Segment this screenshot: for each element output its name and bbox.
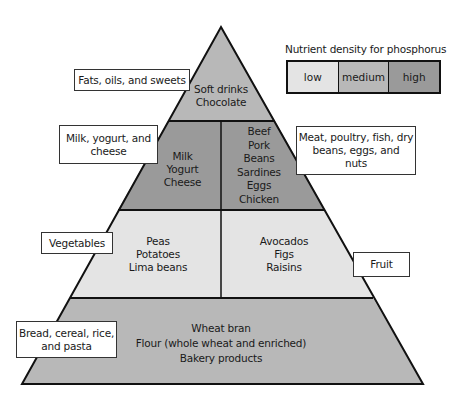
food-item: Milk (150, 150, 215, 163)
food-item: Beans (224, 152, 294, 166)
label-fats-oils-sweets: Fats, oils, and sweets (74, 69, 190, 91)
legend: low medium high (286, 60, 441, 94)
legend-label: low (304, 71, 322, 83)
legend-label: medium (342, 71, 385, 83)
food-item: Peas (120, 235, 196, 248)
label-text: Vegetables (49, 237, 105, 250)
food-item: Wheat bran (121, 321, 321, 336)
food-item: Figs (246, 248, 322, 261)
label-text: Bread, cereal, rice, (19, 327, 114, 340)
foods-fruit: Avocados Figs Raisins (246, 235, 322, 274)
food-item: Raisins (246, 261, 322, 274)
legend-low: low (288, 62, 339, 92)
food-item: Sardines (224, 166, 294, 180)
food-item: Flour (whole wheat and enriched) (121, 336, 321, 351)
label-milk-yogurt-cheese: Milk, yogurt, and cheese (59, 125, 158, 164)
label-text: beans, eggs, and (313, 144, 400, 157)
foods-milk: Milk Yogurt Cheese (150, 150, 215, 189)
label-text: Fats, oils, and sweets (78, 74, 185, 87)
label-text: Fruit (370, 258, 392, 271)
foods-bread: Wheat bran Flour (whole wheat and enrich… (121, 321, 321, 366)
food-item: Eggs (224, 179, 294, 193)
food-item: Chocolate (171, 96, 271, 109)
food-pyramid-diagram: Soft drinks Chocolate Milk Yogurt Cheese… (0, 0, 457, 401)
food-item: Lima beans (120, 261, 196, 274)
label-fruit: Fruit (353, 252, 410, 277)
food-item: Cheese (150, 176, 215, 189)
food-item: Pork (224, 139, 294, 153)
legend-medium: medium (339, 62, 390, 92)
food-item: Chicken (224, 193, 294, 207)
foods-vegetables: Peas Potatoes Lima beans (120, 235, 196, 274)
food-item: Bakery products (121, 351, 321, 366)
label-vegetables: Vegetables (41, 232, 113, 254)
food-item: Potatoes (120, 248, 196, 261)
foods-meat: Beef Pork Beans Sardines Eggs Chicken (224, 125, 294, 207)
label-text: Milk, yogurt, and (66, 132, 151, 145)
legend-title: Nutrient density for phosphorus (285, 43, 446, 55)
food-item: Yogurt (150, 163, 215, 176)
legend-label: high (403, 71, 426, 83)
label-bread-cereal-rice-pasta: Bread, cereal, rice, and pasta (16, 321, 117, 358)
label-meat-poultry-fish: Meat, poultry, fish, dry beans, eggs, an… (296, 126, 416, 175)
label-text: and pasta (41, 340, 91, 353)
legend-high: high (389, 62, 439, 92)
label-text: cheese (90, 145, 126, 158)
label-text: Meat, poultry, fish, dry (299, 131, 414, 144)
label-text: nuts (345, 157, 367, 170)
food-item: Avocados (246, 235, 322, 248)
food-item: Beef (224, 125, 294, 139)
